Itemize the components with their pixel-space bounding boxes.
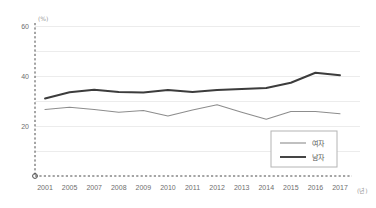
x-axis-tick-labels: 2001200520072008200920102011201220132014… [37,184,348,191]
legend-label: 여자 [312,139,325,148]
chart-legend: 여자남자 [271,131,337,167]
chart-canvas: 204060 200120052007200820092010201120122… [0,0,376,208]
y-axis-tick-label: 60 [21,23,29,30]
x-axis-tick-label: 2001 [37,184,53,191]
x-axis-tick-label: 2015 [283,184,299,191]
data-series-group [45,73,340,120]
legend-label: 남자 [312,153,325,162]
line-chart: 204060 200120052007200820092010201120122… [0,0,376,208]
x-axis-tick-label: 2011 [185,184,200,191]
y-axis-tick-labels: 204060 [21,23,29,130]
legend-frame [271,131,337,167]
y-axis-tick-label: 20 [21,123,29,130]
series-line-female [45,105,340,120]
x-axis-tick-label: 2009 [136,184,152,191]
y-axis-tick-label: 40 [21,73,29,80]
x-axis-tick-label: 2016 [308,184,324,191]
x-axis-tick-label: 2013 [234,184,250,191]
x-axis-tick-label: 2017 [332,184,348,191]
x-axis-tick-label: 2008 [111,184,127,191]
x-axis-tick-label: 2014 [258,184,274,191]
x-axis-tick-label: 2005 [62,184,78,191]
series-line-male [45,73,340,99]
x-axis-tick-label: 2007 [86,184,102,191]
x-axis-tick-label: 2012 [209,184,225,191]
x-axis-tick-label: 2010 [160,184,176,191]
y-axis-unit-label: (%) [38,15,48,22]
x-axis-unit-label: (년) [357,187,368,194]
